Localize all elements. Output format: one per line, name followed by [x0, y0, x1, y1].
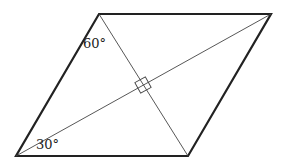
angle-label-60: 60°: [83, 36, 106, 51]
diagram-canvas: 60° 30°: [0, 0, 284, 167]
diagonal-bottom-left-to-top-right: [16, 14, 271, 156]
parallelogram-diagram: 60° 30°: [0, 0, 284, 167]
angle-label-30: 30°: [36, 137, 59, 152]
